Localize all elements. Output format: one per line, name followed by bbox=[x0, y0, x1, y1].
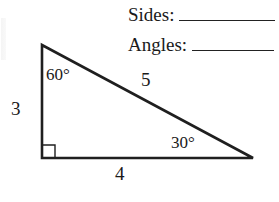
angle-label-right: 30° bbox=[171, 133, 195, 153]
triangle-outline bbox=[42, 45, 253, 158]
side-label-hypotenuse: 5 bbox=[141, 70, 151, 90]
angle-label-top: 60° bbox=[46, 65, 70, 85]
right-angle-marker-icon bbox=[42, 145, 55, 158]
right-triangle-diagram bbox=[0, 0, 279, 202]
side-label-vertical-leg: 3 bbox=[11, 99, 21, 119]
side-label-horizontal-leg: 4 bbox=[115, 164, 125, 184]
